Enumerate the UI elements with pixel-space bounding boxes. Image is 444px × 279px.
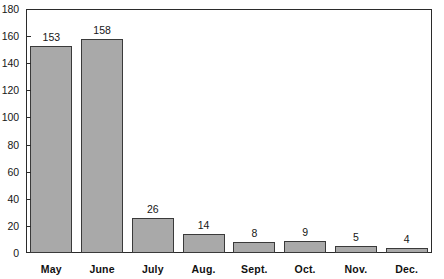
x-tick-label-july: July (142, 264, 164, 275)
y-tick-mark-60 (26, 172, 31, 173)
bar-value-label-sept: 8 (251, 228, 257, 239)
bar-aug (183, 234, 225, 253)
bar-value-label-dec: 4 (404, 234, 410, 245)
y-tick-mark-140 (26, 63, 31, 64)
y-tick-mark-20 (26, 226, 31, 227)
bar-value-label-june: 158 (93, 25, 111, 36)
y-tick-mark-160 (26, 36, 31, 37)
bar-chart: 020406080100120140160180 153May158June26… (0, 0, 444, 279)
bar-dec (386, 248, 428, 253)
bar-value-label-nov: 5 (353, 232, 359, 243)
x-tick-label-june: June (89, 264, 114, 275)
bar-oct (284, 241, 326, 253)
bar-sept (233, 242, 275, 253)
x-tick-label-dec: Dec. (395, 264, 418, 275)
x-tick-label-may: May (41, 264, 62, 275)
bar-value-label-july: 26 (147, 204, 159, 215)
y-tick-mark-80 (26, 145, 31, 146)
y-tick-mark-100 (26, 117, 31, 118)
y-tick-mark-120 (26, 90, 31, 91)
bar-may (30, 46, 72, 253)
bars-layer: 153May158June26July14Aug.8Sept.9Oct.5Nov… (0, 0, 444, 279)
bar-value-label-aug: 14 (198, 220, 210, 231)
x-tick-label-oct: Oct. (295, 264, 316, 275)
x-tick-label-aug: Aug. (192, 264, 216, 275)
bar-july (132, 218, 174, 253)
x-tick-label-nov: Nov. (344, 264, 367, 275)
bar-value-label-oct: 9 (302, 227, 308, 238)
bar-nov (335, 246, 377, 253)
bar-june (81, 39, 123, 253)
x-tick-label-sept: Sept. (241, 264, 268, 275)
y-tick-mark-40 (26, 199, 31, 200)
bar-value-label-may: 153 (43, 32, 61, 43)
